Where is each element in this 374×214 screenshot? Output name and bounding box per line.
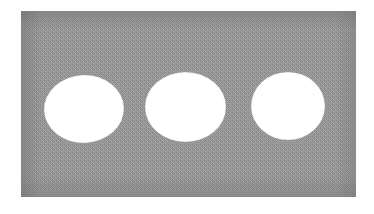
figure-graphic [0,0,374,214]
figure-canvas [0,0,374,214]
ellipse-group [43,72,325,144]
